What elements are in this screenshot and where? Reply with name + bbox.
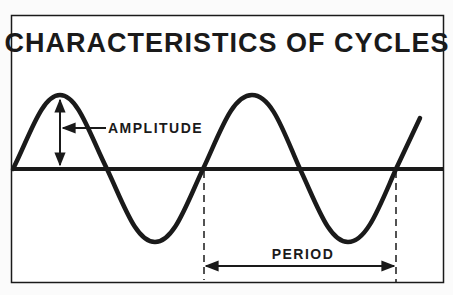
cycle-diagram: CHARACTERISTICS OF CYCLES AMPLITUDE PERI… [0,0,453,295]
amplitude-label: AMPLITUDE [108,120,203,136]
diagram-title: CHARACTERISTICS OF CYCLES [4,28,449,58]
period-label: PERIOD [272,246,335,262]
